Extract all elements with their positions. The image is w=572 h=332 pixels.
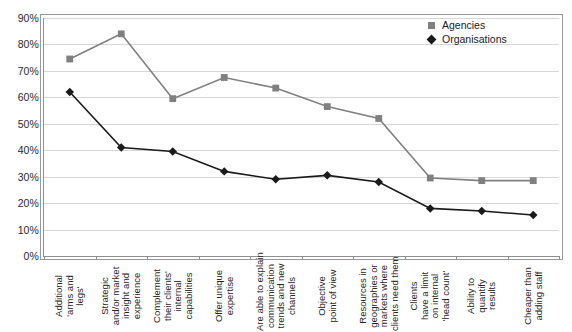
x-axis-label-line: Offer unique [214,261,225,331]
x-axis-label-line: point of view [327,261,338,331]
x-axis-label-line: channels [286,261,297,331]
square-marker [375,115,382,122]
x-axis-tick [96,256,97,260]
x-axis-label-line: Objective [317,261,328,331]
diamond-marker [478,207,486,215]
square-marker [478,177,485,184]
diamond-marker [169,147,177,155]
x-axis-label-line: Additional [54,261,65,331]
x-axis-label: Objectivepoint of view [317,261,338,331]
y-axis-tick-label: 60% [18,91,44,103]
y-axis-tick-label: 70% [18,65,44,77]
x-axis-tick [302,256,303,260]
square-marker [118,30,125,37]
x-axis-tick [559,256,560,260]
square-marker [66,56,73,63]
diamond-marker [323,171,331,179]
x-axis-label: Are able to explaincommunicationtrends a… [255,261,297,331]
square-marker [221,74,228,81]
y-axis-tick-label: 10% [18,224,44,236]
x-axis-label: Strategicand/or marketinsight andexperie… [100,261,142,331]
y-axis-tick-label: 50% [18,118,44,130]
x-axis-label-line: markets where [379,261,390,331]
diamond-marker [529,211,537,219]
x-axis-tick [199,256,200,260]
series-line [70,34,534,181]
series-agencies [66,30,536,184]
y-axis-tick-label: 80% [18,38,44,50]
chart-legend: Agencies Organisations [425,19,507,47]
x-axis-label-line: expertise [224,261,235,331]
x-axis-label-line: trends and new [276,261,287,331]
square-marker [530,177,537,184]
x-axis-label: Resources ingeographies ormarkets wherec… [358,261,400,331]
x-axis-label-line: Ability to [466,261,477,331]
x-axis-label-line: results [487,261,498,331]
diamond-marker-icon [425,33,438,46]
x-axis-label: Clientshave a limiton internal'head coun… [409,261,451,331]
diamond-marker [220,167,228,175]
chart-container: 90%80%70%60%50%40%30%20%10%0% Agencies O… [0,0,572,332]
legend-label-agencies: Agencies [442,19,485,32]
x-axis-label-line: Cheaper than [523,261,534,331]
plot-area: 90%80%70%60%50%40%30%20%10%0% [44,18,559,256]
x-axis-tick [250,256,251,260]
legend-item-agencies: Agencies [425,19,507,32]
square-marker [324,103,331,110]
x-axis-label-line: capabilities [183,261,194,331]
x-axis-label: Additional'arms andlegs' [54,261,86,331]
x-axis-label-line: experience [132,261,143,331]
x-axis-label: Complementtheir clients'internalcapabili… [152,261,194,331]
x-axis-tick [147,256,148,260]
y-axis-tick-label: 30% [18,171,44,183]
legend-item-organisations: Organisations [425,33,507,46]
x-axis-label: Ability toquantifyresults [466,261,498,331]
square-marker [272,85,279,92]
x-axis-label-line: 'head count' [441,261,452,331]
square-marker-icon [425,19,438,32]
x-axis-label-line: adding staff [533,261,544,331]
x-axis-label: Cheaper thanadding staff [523,261,544,331]
x-axis-label-line: Complement [152,261,163,331]
x-axis-tick [456,256,457,260]
diamond-marker [426,204,434,212]
square-marker [427,175,434,182]
x-axis-tick [44,256,45,260]
x-axis-label-line: internal [173,261,184,331]
x-axis-label: Offer uniqueexpertise [214,261,235,331]
y-axis-tick-label: 20% [18,197,44,209]
series-line [70,92,534,215]
square-marker [169,95,176,102]
x-axis-label-line: Are able to explain [255,261,266,331]
diamond-marker [272,175,280,183]
x-axis-tick [508,256,509,260]
x-axis-label-line: clients need them [389,261,400,331]
legend-label-organisations: Organisations [442,33,507,46]
series-group [44,18,559,256]
x-axis-label-line: Resources in [358,261,369,331]
x-axis-tick [353,256,354,260]
x-axis-category-labels: Additional'arms andlegs'Strategicand/or … [0,261,572,332]
x-axis-tick [405,256,406,260]
y-axis-tick-label: 40% [18,144,44,156]
series-organisations [66,88,538,219]
y-axis-tick-label: 90% [18,12,44,24]
x-axis-label-line: legs' [75,261,86,331]
diamond-marker [375,178,383,186]
